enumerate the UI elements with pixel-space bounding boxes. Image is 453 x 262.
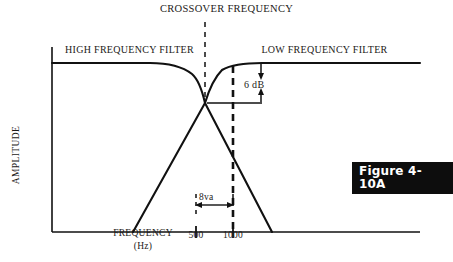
crossover-frequency-figure: CROSSOVER FREQUENCY HIGH FREQUENCY FILTE… bbox=[0, 0, 453, 262]
tick-label-1000: 1000 bbox=[213, 230, 253, 240]
frequency-unit-label: (Hz) bbox=[93, 241, 193, 251]
high-frequency-filter-curve bbox=[52, 63, 272, 232]
octave-span-label: 8va bbox=[199, 192, 214, 202]
high-frequency-filter-label: HIGH FREQUENCY FILTER bbox=[42, 44, 217, 55]
figure-caption: Figure 4-10A bbox=[352, 162, 453, 194]
low-frequency-filter-label: LOW FREQUENCY FILTER bbox=[237, 44, 412, 55]
crossover-diagram-canvas bbox=[0, 0, 453, 262]
attenuation-value-label: 6 dB bbox=[244, 79, 264, 90]
tick-label-500: 500 bbox=[176, 230, 216, 240]
low-frequency-filter-curve bbox=[133, 63, 420, 232]
crossover-frequency-title: CROSSOVER FREQUENCY bbox=[0, 3, 453, 14]
amplitude-axis-label: AMPLITUDE bbox=[11, 115, 21, 195]
